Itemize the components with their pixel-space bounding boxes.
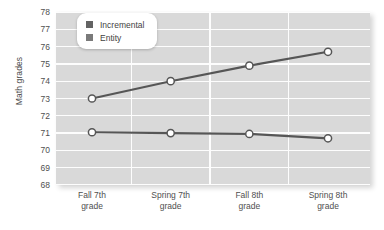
x-axis-tick-label: Fall 7thgrade <box>53 190 131 212</box>
legend-item[interactable]: Entity <box>86 31 144 44</box>
y-axis-title: Math grades <box>14 26 24 136</box>
y-axis-tick-label: 76 <box>26 42 50 51</box>
x-axis-tick-label-line: grade <box>210 201 288 212</box>
data-point-marker <box>167 78 174 85</box>
x-axis-tick-label-line: grade <box>132 201 210 212</box>
line-chart: Math grades 7877767574737271706968 Fall … <box>0 0 384 230</box>
y-axis-tick-label: 70 <box>26 146 50 155</box>
data-point-marker <box>88 95 95 102</box>
y-axis-tick-label: 74 <box>26 77 50 86</box>
y-axis-tick-label: 71 <box>26 129 50 138</box>
legend-item-label: Incremental <box>100 20 144 30</box>
data-point-marker <box>167 130 174 137</box>
y-axis-tick-label: 68 <box>26 181 50 190</box>
y-axis-tick-label: 69 <box>26 163 50 172</box>
data-point-marker <box>324 48 331 55</box>
series-line <box>92 52 328 99</box>
x-axis-tick-label-line: Fall 7th <box>53 190 131 201</box>
legend-swatch-icon <box>86 34 93 41</box>
x-axis-tick-label: Spring 8thgrade <box>289 190 367 212</box>
data-point-marker <box>88 129 95 136</box>
x-axis-tick-label-line: Fall 8th <box>210 190 288 201</box>
chart-legend: IncrementalEntity <box>77 13 157 49</box>
y-axis-tick-label: 77 <box>26 25 50 34</box>
legend-item[interactable]: Incremental <box>86 18 144 31</box>
series-line <box>92 132 328 138</box>
legend-item-label: Entity <box>100 33 121 43</box>
y-axis-tick-label: 78 <box>26 8 50 17</box>
y-axis-tick-label: 72 <box>26 112 50 121</box>
x-axis-tick-label-line: Spring 8th <box>289 190 367 201</box>
x-axis-tick-label-line: Spring 7th <box>132 190 210 201</box>
x-axis-tick-label: Fall 8thgrade <box>210 190 288 212</box>
x-axis-tick-labels: Fall 7thgradeSpring 7thgradeFall 8thgrad… <box>56 190 370 224</box>
x-axis-tick-label-line: grade <box>289 201 367 212</box>
y-axis-tick-labels: 7877767574737271706968 <box>26 12 50 185</box>
x-axis-tick-label: Spring 7thgrade <box>132 190 210 212</box>
y-axis-tick-label: 73 <box>26 94 50 103</box>
data-point-marker <box>246 62 253 69</box>
x-axis-tick-label-line: grade <box>53 201 131 212</box>
y-axis-tick-label: 75 <box>26 60 50 69</box>
data-point-marker <box>246 130 253 137</box>
data-point-marker <box>324 135 331 142</box>
legend-swatch-icon <box>86 21 93 28</box>
